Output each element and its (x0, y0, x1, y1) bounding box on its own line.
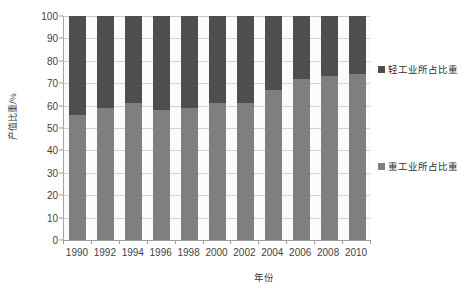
bar-segment-light-1996[interactable] (153, 16, 170, 110)
x-tick-mark-0 (63, 240, 64, 244)
x-tick-mark-3 (147, 240, 148, 244)
bar-segment-light-1994[interactable] (125, 16, 142, 103)
legend-entry-2[interactable]: 重工业所占比重 (378, 160, 465, 173)
bar-segment-heavy-1992[interactable] (97, 108, 114, 240)
bars-layer (64, 16, 370, 240)
x-tick-mark-1 (91, 240, 92, 244)
x-tick-mark-2 (119, 240, 120, 244)
bar-group-2010[interactable] (349, 16, 366, 240)
chart-legend: 轻工业所占比重重工业所占比重 (378, 0, 465, 298)
legend-entry-1[interactable]: 轻工业所占比重 (378, 63, 465, 76)
legend-swatch-icon-1 (378, 66, 385, 73)
bar-segment-light-2004[interactable] (265, 16, 282, 90)
bar-group-2008[interactable] (321, 16, 338, 240)
bar-group-1990[interactable] (69, 16, 86, 240)
x-tick-mark-10 (342, 240, 343, 244)
x-axis-title: 年份 (111, 270, 418, 284)
bar-segment-heavy-2008[interactable] (321, 76, 338, 240)
y-tick-label-80: 80 (2, 55, 58, 66)
bar-segment-heavy-2010[interactable] (349, 74, 366, 240)
bar-group-1992[interactable] (97, 16, 114, 240)
y-tick-label-40: 40 (2, 145, 58, 156)
x-tick-mark-4 (175, 240, 176, 244)
bar-group-2004[interactable] (265, 16, 282, 240)
legend-label-2: 重工业所占比重 (388, 160, 458, 173)
y-tick-label-100: 100 (2, 11, 58, 22)
bar-group-2002[interactable] (237, 16, 254, 240)
y-tick-label-50: 50 (2, 123, 58, 134)
bar-segment-heavy-1994[interactable] (125, 103, 142, 240)
x-tick-label-2010: 2010 (336, 247, 376, 258)
bar-group-2006[interactable] (293, 16, 310, 240)
bar-segment-heavy-2006[interactable] (293, 79, 310, 240)
bar-segment-heavy-2000[interactable] (209, 103, 226, 240)
y-tick-label-10: 10 (2, 212, 58, 223)
bar-group-1996[interactable] (153, 16, 170, 240)
y-tick-label-30: 30 (2, 167, 58, 178)
bar-segment-light-2006[interactable] (293, 16, 310, 79)
bar-segment-light-1998[interactable] (181, 16, 198, 108)
bar-segment-light-2008[interactable] (321, 16, 338, 76)
bar-group-1994[interactable] (125, 16, 142, 240)
bar-segment-light-1990[interactable] (69, 16, 86, 115)
bar-segment-light-2002[interactable] (237, 16, 254, 103)
y-tick-label-70: 70 (2, 78, 58, 89)
legend-label-1: 轻工业所占比重 (388, 63, 458, 76)
bar-segment-heavy-1996[interactable] (153, 110, 170, 240)
legend-swatch-icon-2 (378, 163, 385, 170)
bar-segment-heavy-1998[interactable] (181, 108, 198, 240)
y-tick-label-90: 90 (2, 33, 58, 44)
bar-segment-light-2010[interactable] (349, 16, 366, 74)
x-tick-mark-7 (258, 240, 259, 244)
x-tick-mark-9 (314, 240, 315, 244)
x-tick-mark-5 (203, 240, 204, 244)
bar-segment-light-1992[interactable] (97, 16, 114, 108)
x-tick-mark-6 (230, 240, 231, 244)
x-tick-mark-8 (286, 240, 287, 244)
x-tick-mark-11 (370, 240, 371, 244)
bar-segment-heavy-1990[interactable] (69, 115, 86, 240)
bar-segment-light-2000[interactable] (209, 16, 226, 103)
stacked-bar-chart: 产值比重/% 1009080706050403020100 1990199219… (0, 0, 465, 298)
bar-segment-heavy-2002[interactable] (237, 103, 254, 240)
bar-segment-heavy-2004[interactable] (265, 90, 282, 240)
bar-group-2000[interactable] (209, 16, 226, 240)
y-tick-label-20: 20 (2, 190, 58, 201)
y-tick-label-60: 60 (2, 100, 58, 111)
plot-area (63, 16, 370, 240)
bar-group-1998[interactable] (181, 16, 198, 240)
